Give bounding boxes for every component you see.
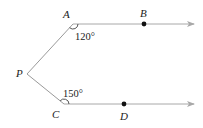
angle-label-C: 150° <box>63 88 83 99</box>
label-A: A <box>62 8 70 20</box>
label-B: B <box>140 7 147 19</box>
angle-label-A: 120° <box>75 31 95 42</box>
segment-PC <box>27 74 64 104</box>
point-B <box>142 22 147 27</box>
label-P: P <box>15 67 23 79</box>
point-D <box>122 102 127 107</box>
label-C: C <box>52 108 60 120</box>
label-D: D <box>119 110 128 122</box>
geometry-diagram: A B P C D 120° 150° <box>0 0 203 128</box>
segment-PA <box>27 24 73 74</box>
diagram-canvas: A B P C D 120° 150° <box>0 0 203 128</box>
